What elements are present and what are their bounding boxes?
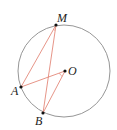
segment-ma <box>21 25 56 87</box>
geometry-diagram: M A B O <box>0 0 117 130</box>
point-o <box>63 69 66 72</box>
label-b: B <box>35 114 43 128</box>
label-m: M <box>56 11 68 25</box>
point-a <box>19 85 22 88</box>
segment-ao <box>21 71 65 87</box>
label-o: O <box>68 64 77 78</box>
angle-mark-o <box>59 73 62 76</box>
label-a: A <box>10 84 19 98</box>
